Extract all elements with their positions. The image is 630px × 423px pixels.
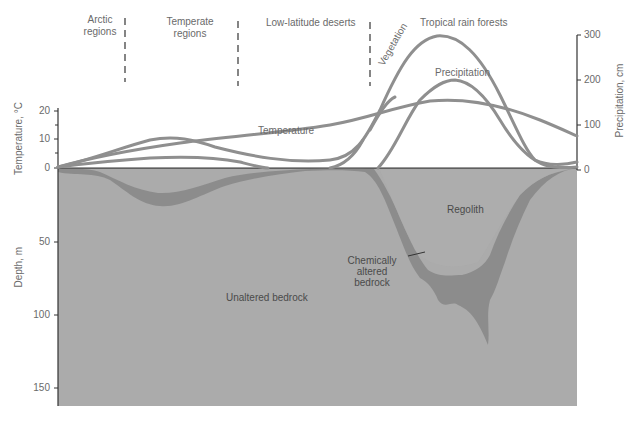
curves xyxy=(58,36,577,168)
depth-tick-150: 150 xyxy=(20,383,50,393)
temp-tick-20: 20 xyxy=(20,106,50,116)
curve-label-precipitation: Precipitation xyxy=(435,67,490,79)
unaltered-bedrock-label: Unaltered bedrock xyxy=(226,292,308,303)
temp-tick-10: 10 xyxy=(20,134,50,144)
temp-tick-0: 0 xyxy=(20,163,50,173)
region-arctic-line2: regions xyxy=(80,26,120,38)
depth-axis-title: Depth, m xyxy=(13,248,24,288)
region-label-temperate: Temperate regions xyxy=(160,16,220,40)
chem-line3: bedrock xyxy=(340,277,404,288)
precip-tick-300: 300 xyxy=(584,30,601,40)
chemically-altered-label: Chemically altered bedrock xyxy=(340,255,404,288)
region-arctic-line1: Arctic xyxy=(80,14,120,26)
depth-tick-50: 50 xyxy=(20,237,50,247)
region-label-deserts: Low-latitude deserts xyxy=(266,17,356,29)
precip-tick-100: 100 xyxy=(584,120,601,130)
region-temperate-line2: regions xyxy=(160,28,220,40)
curve-label-temperature: Temperature xyxy=(258,125,314,137)
regolith-label: Regolith xyxy=(447,204,484,215)
precipitation-axis-title: Precipitation, cm xyxy=(614,56,625,146)
chem-line1: Chemically xyxy=(340,255,404,266)
region-label-tropical: Tropical rain forests xyxy=(420,17,507,29)
temperature-curve xyxy=(58,100,577,167)
temperature-axis-title: Temperature, °C xyxy=(13,99,24,179)
weathering-profile-figure: Arctic regions Temperate regions Low-lat… xyxy=(0,0,630,423)
region-label-arctic: Arctic regions xyxy=(80,14,120,38)
precip-tick-200: 200 xyxy=(584,75,601,85)
region-temperate-line1: Temperate xyxy=(160,16,220,28)
vegetation-curve xyxy=(58,36,577,167)
precip-tick-0: 0 xyxy=(584,165,590,175)
figure-graphics xyxy=(0,0,630,423)
chem-line2: altered xyxy=(340,266,404,277)
depth-tick-100: 100 xyxy=(20,310,50,320)
